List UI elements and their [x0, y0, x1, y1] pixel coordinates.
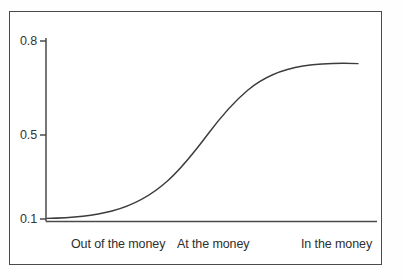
y-axis-tick-label-2: 0.1: [20, 213, 37, 226]
x-axis-label-at-the-money: At the money: [177, 238, 249, 251]
x-axis-label-in-the-money: In the money: [301, 238, 372, 251]
y-axis-tick-label-0: 0.8: [20, 35, 37, 48]
chart-figure: 0.8 0.5 0.1 Out of the money At the mone…: [0, 0, 403, 280]
x-axis-label-out-of-the-money: Out of the money: [71, 238, 165, 251]
y-axis-tick-label-1: 0.5: [20, 129, 37, 142]
delta-curve: [47, 63, 358, 218]
